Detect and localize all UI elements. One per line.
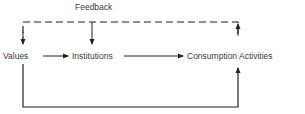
feedback-loop-line — [23, 22, 238, 38]
values-to-consumption-line — [23, 64, 238, 107]
node-values: Values — [3, 52, 28, 61]
node-consumption-activities: Consumption Activities — [187, 52, 273, 61]
feedback-label: Feedback — [75, 3, 112, 12]
node-institutions: Institutions — [72, 52, 113, 61]
